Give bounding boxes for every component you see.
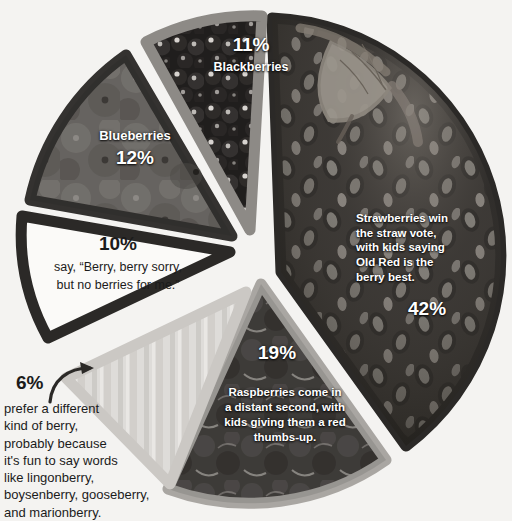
raspberries-percent: 19% <box>258 342 296 364</box>
raspberries-line-1: Raspberries come in <box>228 386 341 398</box>
other-berry-line-4: it's fun to say words <box>4 452 174 469</box>
strawberries-line-1: Strawberries win <box>356 211 496 226</box>
blackberries-name: Blackberries <box>176 60 326 75</box>
raspberries-line-2: a distant second, with <box>225 401 345 413</box>
slice-caption-other-berry: 6% prefer a different kind of berry, pro… <box>4 372 174 521</box>
no-berries-line-2: but no berries for me.” <box>28 277 208 293</box>
other-berry-line-7: and marionberry. <box>4 504 174 521</box>
other-berry-line-2: kind of berry, <box>4 417 174 434</box>
raspberries-line-4: thumbs-up. <box>254 431 317 443</box>
slice-caption-raspberries: Raspberries come in a distant second, wi… <box>210 385 360 445</box>
blueberries-percent: 12% <box>60 146 210 170</box>
slice-caption-strawberries: Strawberries win the straw vote, with ki… <box>356 211 496 285</box>
blackberries-percent: 11% <box>176 34 326 56</box>
other-berry-line-6: boysenberry, gooseberry, <box>4 486 174 503</box>
slice-caption-no-berries: 10% say, “Berry, berry sorry, but no ber… <box>28 232 208 293</box>
blueberries-name: Blueberries <box>60 128 210 144</box>
slice-label-blackberries: 11% Blackberries <box>176 34 326 75</box>
strawberries-line-3: with kids saying <box>356 240 496 255</box>
other-berry-percent: 6% <box>16 372 174 394</box>
no-berries-percent: 10% <box>28 232 208 257</box>
other-berry-line-1: prefer a different <box>4 400 174 417</box>
strawberries-line-4: Old Red is the <box>356 255 496 270</box>
other-berry-line-3: probably because <box>4 435 174 452</box>
no-berries-line-1: say, “Berry, berry sorry, <box>28 259 208 275</box>
other-berry-line-5: like lingonberry, <box>4 469 174 486</box>
raspberries-line-3: kids giving them a red <box>224 416 345 428</box>
strawberries-percent: 42% <box>408 298 446 320</box>
strawberries-line-5: berry best. <box>356 270 496 285</box>
strawberries-line-2: the straw vote, <box>356 226 496 241</box>
slice-label-blueberries: Blueberries 12% <box>60 128 210 170</box>
